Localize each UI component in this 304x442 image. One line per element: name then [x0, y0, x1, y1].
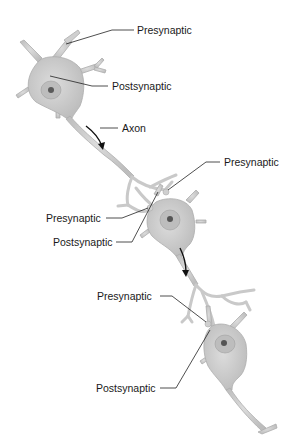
- axon-branches-2: [182, 285, 254, 326]
- neuron-1: [16, 38, 134, 178]
- label-n1-presynaptic: Presynaptic: [137, 25, 192, 36]
- neuron-2: [140, 184, 206, 286]
- label-n1-axon: Axon: [122, 123, 146, 134]
- label-n2-presynaptic-right: Presynaptic: [224, 157, 279, 168]
- neuron-3: [200, 306, 277, 434]
- n1-nucleolus: [48, 87, 54, 93]
- label-n3-postsynaptic: Postsynaptic: [96, 383, 156, 394]
- n3-nucleolus: [221, 340, 227, 346]
- label-n2-presynaptic-left: Presynaptic: [46, 213, 101, 224]
- label-n2-postsynaptic: Postsynaptic: [53, 237, 113, 248]
- label-n1-postsynaptic: Postsynaptic: [112, 81, 172, 92]
- label-n3-presynaptic: Presynaptic: [97, 291, 152, 302]
- n2-nucleolus: [167, 216, 173, 222]
